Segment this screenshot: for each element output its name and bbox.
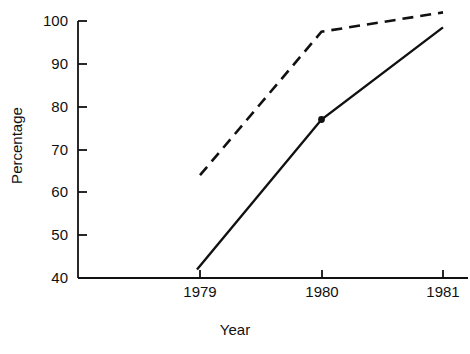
y-tick-label-60: 60: [34, 183, 68, 200]
y-tick-label-100: 100: [34, 12, 68, 29]
y-tick-label-90: 90: [34, 55, 68, 72]
y-tick-label-80: 80: [34, 98, 68, 115]
series-solid-line: [197, 27, 443, 269]
y-tick-label-50: 50: [34, 226, 68, 243]
x-axis-title: Year: [0, 321, 470, 338]
chart-plot-area: [0, 0, 470, 354]
data-point-marker-1980: [318, 116, 325, 123]
x-axis-ticks: [200, 270, 443, 278]
x-tick-label-1981: 1981: [415, 283, 470, 300]
y-axis-title: Percentage: [8, 96, 25, 196]
y-tick-label-70: 70: [34, 141, 68, 158]
line-chart: 100 90 80 70 60 50 40 1979 1980 1981 Per…: [0, 0, 470, 354]
x-tick-label-1980: 1980: [294, 283, 350, 300]
x-tick-label-1979: 1979: [172, 283, 228, 300]
series-dashed-line: [200, 12, 443, 175]
y-axis-ticks: [78, 21, 87, 235]
y-tick-label-40: 40: [34, 269, 68, 286]
